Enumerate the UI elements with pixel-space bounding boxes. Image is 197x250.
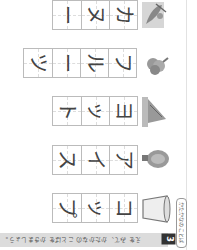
char-trace: カ [110,1,138,29]
grid-cell[interactable]: ス [53,146,81,174]
grid-cell[interactable]: ッ [81,97,109,125]
char-trace: ヨ [110,97,138,125]
grid-cell[interactable]: プ [53,194,81,222]
writing-grid-cup: コ ッ プ [52,193,138,223]
grid-cell[interactable]: ー [53,1,81,29]
char-trace: フ [109,49,137,77]
char-trace: ー [53,49,81,77]
cup-picture [141,195,167,221]
canoe-picture [142,2,168,28]
writing-grid-fruits: フ ル ー ツ [23,48,137,78]
grid-cell[interactable]: ヨ [109,97,137,125]
char-trace: ツ [24,49,52,77]
char-trace: ッ [82,97,110,125]
grid-cell[interactable]: ヌ [81,1,109,29]
grid-cell[interactable]: フ [108,49,136,77]
grid-cell[interactable]: イ [81,146,109,174]
grid-cell[interactable]: ツ [24,49,52,77]
section-number-badge: 3 [162,234,176,245]
char-trace: ッ [82,194,110,222]
char-trace: ア [110,146,138,174]
grid-cell[interactable]: ル [80,49,108,77]
char-trace: ー [53,1,81,29]
char-trace: ト [53,97,81,125]
worksheet-page: カ ヌ ー フ ル ー ツ ヨ ッ ト ア イ ス コ ッ プ えを みて、かた… [0,0,197,250]
char-trace: ル [81,49,109,77]
side-tab: かたかなの ことば [176,198,187,248]
side-tab-label: かたかなの ことば [177,199,186,247]
instruction-text: えを みて、かたかなの ことばを かきましょう。 [2,235,152,245]
ice-cream-picture [142,146,168,172]
char-trace: プ [53,194,81,222]
fruit-picture [143,52,169,78]
grid-cell[interactable]: ト [53,97,81,125]
writing-grid-yacht: ヨ ッ ト [52,96,138,126]
char-trace: ス [53,146,81,174]
char-trace: ヌ [82,1,110,29]
grid-cell[interactable]: ー [52,49,80,77]
grid-cell[interactable]: コ [109,194,137,222]
writing-grid-ice-cream: ア イ ス [52,145,138,175]
char-trace: イ [82,146,110,174]
grid-cell[interactable]: ッ [81,194,109,222]
writing-grid-canoe: カ ヌ ー [52,0,138,30]
grid-cell[interactable]: カ [109,1,137,29]
yacht-picture [142,97,168,123]
grid-cell[interactable]: ア [109,146,137,174]
char-trace: コ [110,194,138,222]
